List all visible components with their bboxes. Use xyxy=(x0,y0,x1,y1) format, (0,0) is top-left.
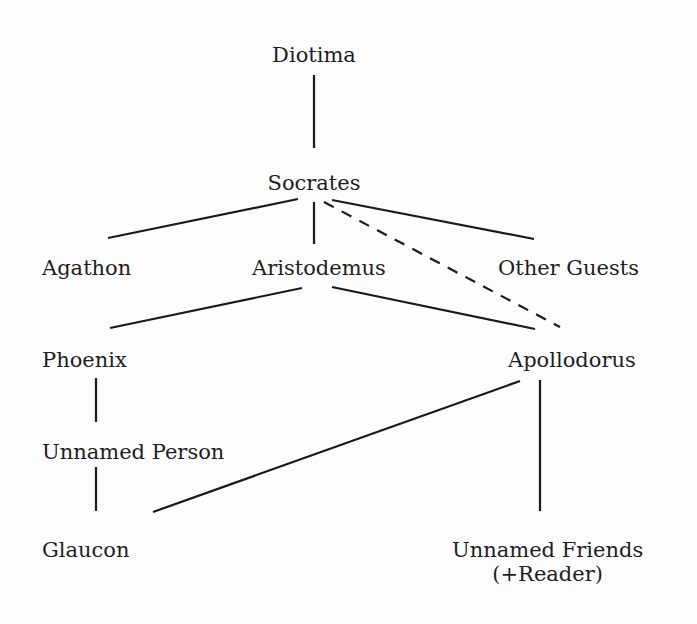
node-glaucon: Glaucon xyxy=(42,538,129,562)
edge-aristodemus-apollodorus xyxy=(332,287,535,329)
edge-socrates-agathon xyxy=(108,199,298,238)
node-other-guests: Other Guests xyxy=(498,256,639,280)
node-apollodorus: Apollodorus xyxy=(508,348,636,372)
node-agathon: Agathon xyxy=(42,256,131,280)
node-aristodemus: Aristodemus xyxy=(252,256,386,280)
node-unnamed-friends-label: Unnamed Friends xyxy=(452,538,643,562)
node-unnamed-person: Unnamed Person xyxy=(42,440,224,464)
node-socrates: Socrates xyxy=(268,171,361,195)
edge-aristodemus-phoenix xyxy=(110,288,302,328)
edge-socrates-other-guests xyxy=(332,200,534,239)
edge-layer xyxy=(0,0,697,624)
node-diotima: Diotima xyxy=(272,43,356,67)
node-unnamed-friends: Unnamed Friends (+Reader) xyxy=(452,538,643,586)
node-phoenix: Phoenix xyxy=(42,348,127,372)
node-unnamed-friends-reader: (+Reader) xyxy=(452,562,643,586)
transmission-diagram: Diotima Socrates Agathon Aristodemus Oth… xyxy=(0,0,697,624)
